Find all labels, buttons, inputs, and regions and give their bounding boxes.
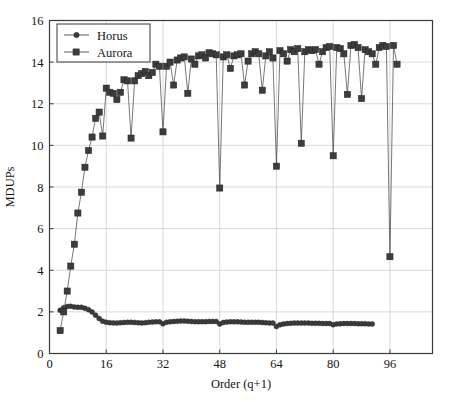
x-tick-label: 16 [100, 357, 113, 371]
data-point [185, 90, 191, 96]
data-point [355, 44, 361, 50]
data-point [110, 90, 116, 96]
y-tick-label: 0 [37, 347, 43, 361]
data-point [390, 42, 396, 48]
y-tick-label: 16 [31, 14, 44, 28]
y-tick-label: 4 [37, 264, 44, 278]
data-point [327, 43, 333, 49]
x-tick-label: 32 [157, 357, 170, 371]
data-point [370, 321, 375, 326]
x-tick-label: 64 [270, 357, 283, 371]
mdups-vs-order-line-chart: 01632486480960246810121416Order (q+1)MDU… [0, 0, 455, 402]
data-point [192, 61, 198, 67]
data-point [330, 153, 336, 159]
data-point [117, 89, 123, 95]
data-point [64, 288, 70, 294]
data-point [394, 61, 400, 67]
data-point [238, 51, 244, 57]
data-point [341, 51, 347, 57]
legend[interactable]: HorusAurora [57, 24, 150, 62]
data-point [149, 69, 155, 75]
data-point [100, 133, 106, 139]
data-point [298, 140, 304, 146]
data-point [259, 87, 265, 93]
y-tick-label: 10 [31, 139, 44, 153]
data-point [156, 63, 162, 69]
data-point [344, 91, 350, 97]
data-point [284, 58, 290, 64]
data-point [241, 82, 247, 88]
data-point [213, 52, 219, 58]
data-point [68, 263, 74, 269]
x-tick-label: 0 [46, 357, 52, 371]
data-point [93, 115, 99, 121]
data-point [78, 189, 84, 195]
data-point [57, 328, 63, 334]
data-point [312, 47, 318, 53]
data-point [227, 65, 233, 71]
data-point [270, 55, 276, 61]
data-point [295, 46, 301, 52]
data-point [75, 210, 81, 216]
chart-figure: 01632486480960246810121416Order (q+1)MDU… [0, 0, 455, 402]
y-axis-title: MDUPs [3, 166, 17, 207]
data-point [171, 82, 177, 88]
data-point [181, 54, 187, 60]
x-axis-title: Order (q+1) [211, 377, 271, 391]
data-point [82, 164, 88, 170]
data-point [61, 309, 67, 315]
legend-label: Aurora [97, 46, 133, 60]
data-point [167, 59, 173, 65]
legend-square-marker-icon [73, 49, 79, 55]
y-tick-label: 8 [37, 181, 43, 195]
data-point [128, 135, 134, 141]
data-point [387, 254, 393, 260]
data-point [273, 163, 279, 169]
data-point [124, 78, 130, 84]
data-point [316, 61, 322, 67]
data-point [245, 58, 251, 64]
y-tick-label: 14 [31, 56, 44, 70]
y-tick-label: 12 [31, 97, 44, 111]
legend-circle-marker-icon [74, 32, 79, 37]
y-tick-label: 6 [37, 222, 43, 236]
data-point [358, 95, 364, 101]
data-point [266, 49, 272, 55]
data-point [256, 51, 262, 57]
legend-label: Horus [97, 29, 128, 43]
x-tick-label: 96 [384, 357, 397, 371]
data-point [280, 51, 286, 57]
grid-lines [50, 21, 433, 354]
data-point [89, 134, 95, 140]
data-point [217, 185, 223, 191]
x-tick-label: 80 [327, 357, 340, 371]
data-point [224, 52, 230, 58]
data-point [369, 51, 375, 57]
data-point [373, 61, 379, 67]
data-point [383, 43, 389, 49]
y-tick-label: 2 [37, 305, 43, 319]
data-point [96, 109, 102, 115]
data-point [71, 241, 77, 247]
data-point [114, 96, 120, 102]
x-tick-label: 48 [213, 357, 226, 371]
data-point [85, 147, 91, 153]
data-point [160, 129, 166, 135]
